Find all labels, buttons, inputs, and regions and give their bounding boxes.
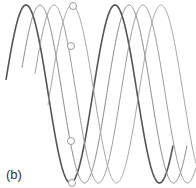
panel-label: (b) [6, 167, 22, 182]
phase-markers [68, 3, 77, 187]
circle-marker-icon [69, 180, 76, 187]
circle-marker-icon [68, 43, 75, 50]
circle-marker-icon [70, 3, 77, 10]
circle-marker-icon [68, 138, 75, 145]
wave-1-curve [6, 5, 173, 183]
wave-4-curve [48, 5, 196, 183]
wave-curves [6, 5, 196, 183]
wave-diagram [0, 0, 196, 188]
